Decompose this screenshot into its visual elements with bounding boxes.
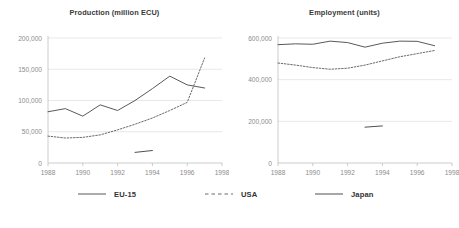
series-line-usa: [48, 58, 205, 138]
x-axis-tick-label: 1994: [375, 169, 390, 176]
x-axis-tick-label: 1996: [410, 169, 425, 176]
x-axis-tick-label: 1990: [75, 169, 90, 176]
x-axis-tick-label: 1996: [180, 169, 195, 176]
legend-item-japan: Japan: [315, 186, 373, 202]
y-axis-tick-label: 200,000: [18, 35, 42, 42]
x-axis-tick-label: 1988: [271, 169, 286, 176]
y-axis-tick-label: 0: [268, 160, 272, 167]
chart-panels: Production (million ECU) 050,000100,0001…: [0, 0, 459, 185]
x-axis-tick-label: 1992: [340, 169, 355, 176]
y-axis-tick-label: 600,000: [248, 35, 272, 42]
x-axis-tick-label: 1992: [110, 169, 125, 176]
x-axis-tick-label: 1988: [41, 169, 56, 176]
y-axis-tick-label: 100,000: [18, 97, 42, 104]
y-axis-tick-label: 400,000: [248, 76, 272, 83]
series-line-usa: [278, 51, 435, 70]
figure-root: Production (million ECU) 050,000100,0001…: [0, 0, 459, 228]
series-line-eu-15: [48, 76, 205, 116]
x-axis-tick-label: 1998: [215, 169, 229, 176]
line-chart-production: 050,000100,000150,000200,000198819901992…: [0, 0, 229, 185]
series-line-japan: [135, 151, 152, 153]
x-axis-tick-label: 1990: [305, 169, 320, 176]
line-chart-employment: 0200,000400,000600,000198819901992199419…: [230, 0, 459, 185]
legend-label-eu-15: EU-15: [114, 190, 136, 199]
y-axis-tick-label: 0: [38, 160, 42, 167]
legend-item-eu-15: EU-15: [78, 186, 136, 202]
y-axis-tick-label: 150,000: [18, 66, 42, 73]
chart-panel-employment: Employment (units) 0200,000400,000600,00…: [230, 0, 459, 185]
chart-legend: EU-15 USA Japan: [0, 186, 459, 216]
y-axis-tick-label: 50,000: [22, 128, 43, 135]
legend-label-japan: Japan: [351, 190, 373, 199]
legend-line-icon-eu-15: [78, 190, 106, 198]
x-axis-tick-label: 1998: [445, 169, 459, 176]
series-line-japan: [365, 126, 382, 127]
legend-item-usa: USA: [205, 186, 257, 202]
y-axis-tick-label: 200,000: [248, 118, 272, 125]
x-axis-tick-label: 1994: [145, 169, 160, 176]
legend-line-icon-japan: [315, 190, 343, 198]
legend-label-usa: USA: [241, 190, 257, 199]
chart-panel-production: Production (million ECU) 050,000100,0001…: [0, 0, 229, 185]
legend-line-icon-usa: [205, 190, 233, 198]
series-line-eu-15: [278, 41, 435, 47]
